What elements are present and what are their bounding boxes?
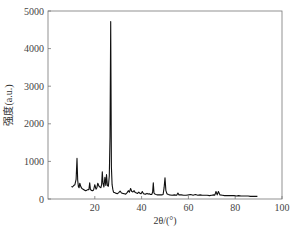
plot-frame [48, 11, 282, 199]
y-tick-label: 0 [39, 194, 44, 205]
x-tick-label: 40 [137, 202, 147, 213]
x-axis-ticks: 20406080100 [90, 196, 290, 213]
y-tick-label: 2000 [24, 118, 44, 129]
y-tick-label: 5000 [24, 6, 44, 17]
y-axis-label: 强度(a.u.) [2, 84, 15, 125]
y-axis-ticks: 010002000300040005000 [24, 6, 51, 205]
y-tick-label: 1000 [24, 156, 44, 167]
xrd-chart: 010002000300040005000 20406080100 2θ/(°)… [0, 0, 295, 231]
y-tick-label: 3000 [24, 81, 44, 92]
x-tick-label: 100 [275, 202, 290, 213]
x-tick-label: 20 [90, 202, 100, 213]
xrd-pattern-line [71, 22, 257, 197]
x-axis-label: 2θ/(°) [153, 215, 176, 227]
x-tick-label: 60 [183, 202, 193, 213]
x-tick-label: 80 [230, 202, 240, 213]
y-tick-label: 4000 [24, 43, 44, 54]
